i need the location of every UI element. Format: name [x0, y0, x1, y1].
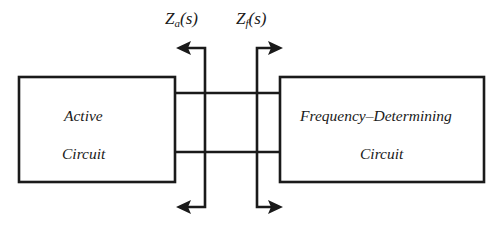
frequency-determining-circuit-label-line1: Frequency–Determining	[300, 108, 452, 124]
label-zf: Zf(s)	[236, 10, 266, 29]
active-circuit-block-outline	[19, 77, 175, 182]
za-stem-path	[186, 48, 205, 207]
active-circuit-label-line2: Circuit	[62, 146, 105, 162]
frequency-determining-circuit-block-outline	[280, 77, 484, 182]
zf-stem-path	[257, 48, 273, 207]
active-circuit-label-line1: Active	[64, 108, 103, 124]
label-za: Za(s)	[165, 10, 198, 29]
label-zf-argument: (s)	[249, 9, 267, 28]
frequency-determining-circuit-label-line2: Circuit	[360, 146, 403, 162]
diagram-canvas: Za(s) Zf(s) Active Circuit Frequency–Det…	[0, 0, 504, 229]
label-za-argument: (s)	[180, 9, 198, 28]
